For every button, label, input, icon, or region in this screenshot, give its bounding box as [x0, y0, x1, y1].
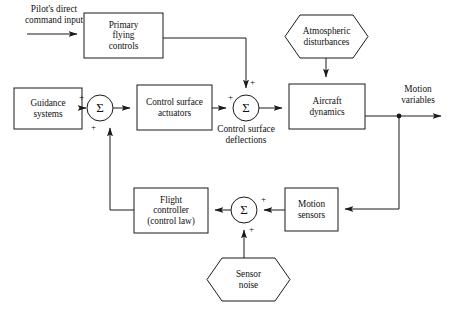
label-control-surface-actuators: Control surface actuators — [137, 85, 212, 130]
sign-summer-control-surface-input-plus: + — [228, 92, 233, 102]
label-atmospheric-disturbances: Atmospheric disturbances — [285, 15, 368, 58]
summer-guidance-symbol: Σ — [88, 100, 112, 116]
label-motion-sensors: Motion sensors — [285, 188, 338, 231]
label-motion-variables: Motion variables — [393, 84, 443, 105]
line-primary-to-summer-control-surface — [163, 38, 246, 88]
label-primary-flying-controls: Primary flying controls — [84, 13, 163, 58]
sign-summer-guidance-input-plus: + — [79, 92, 84, 102]
label-pilot-command-input: Pilot's direct command input — [15, 4, 93, 25]
sign-summer-control-surface-top-plus: + — [250, 77, 255, 87]
label-guidance-systems: Guidance systems — [14, 88, 82, 129]
label-aircraft-dynamics: Aircraft dynamics — [289, 84, 365, 129]
label-sensor-noise: Sensor noise — [207, 258, 290, 301]
output-branch-node — [397, 114, 402, 119]
sign-summer-sensor-noise-plus: + — [249, 224, 254, 234]
block-diagram: Primary flying controls Guidance systems… — [0, 0, 451, 318]
summer-sensor-symbol: Σ — [232, 202, 256, 218]
sign-summer-guidance-feedback-plus: + — [91, 122, 96, 132]
sign-summer-sensor-input-plus: + — [261, 194, 266, 204]
summer-control-surface-symbol: Σ — [234, 100, 258, 116]
label-control-surface-deflections: Control surface deflections — [205, 124, 287, 145]
line-output-branch-to-motion-sensors — [345, 116, 399, 209]
line-flight-controller-to-summer-guidance — [110, 128, 134, 210]
label-flight-controller: Flight controller (control law) — [134, 188, 208, 233]
